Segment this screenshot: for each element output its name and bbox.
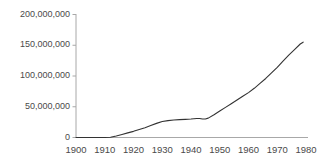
y-axis-tick-label: 0 (65, 132, 70, 142)
x-axis-tick-label: 1970 (261, 144, 293, 155)
x-axis-tick-label: 1900 (60, 144, 92, 155)
x-axis-tick-label: 1930 (146, 144, 178, 155)
y-axis-tick-label: 50,000,000 (25, 101, 70, 111)
x-axis-tick-label: 1920 (118, 144, 150, 155)
data-series-line (76, 42, 303, 137)
y-axis-tick-label: 100,000,000 (20, 70, 70, 80)
y-axis-tick-label: 200,000,000 (20, 9, 70, 19)
line-chart: 050,000,000100,000,000150,000,000200,000… (0, 0, 322, 168)
y-axis-ticks (73, 15, 77, 138)
y-axis-tick-label: 150,000,000 (20, 39, 70, 49)
x-axis-tick-label: 1980 (290, 144, 322, 155)
x-axis-tick-label: 1910 (89, 144, 121, 155)
x-axis-tick-label: 1940 (175, 144, 207, 155)
x-axis-tick-label: 1960 (233, 144, 265, 155)
chart-plot-area (0, 0, 322, 168)
x-axis-tick-label: 1950 (204, 144, 236, 155)
